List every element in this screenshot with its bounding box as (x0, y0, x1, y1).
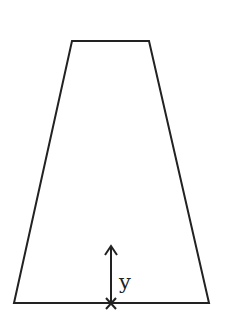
y-axis-label: y (118, 270, 131, 294)
diagram-canvas: y (0, 0, 229, 322)
arrow-icon (105, 246, 117, 303)
